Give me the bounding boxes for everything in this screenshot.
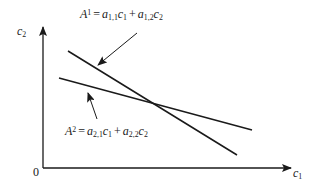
a2-t2-coef-sub: 2,2 (129, 130, 139, 139)
pointer-arrow-a1 (98, 33, 137, 65)
y-axis-label-sub: 2 (22, 30, 26, 39)
a2-equals: = (76, 124, 87, 138)
a1-plus: + (127, 7, 138, 21)
x-axis-label: c1 (293, 167, 302, 181)
y-axis-label: c2 (17, 25, 26, 39)
a2-t2-var-sub: 2 (144, 130, 148, 139)
diagram-svg (0, 0, 319, 189)
equation-a2-label: A2=a2,1c1+a2,2c2 (65, 125, 148, 139)
a2-t1-coef-sub: 2,1 (93, 130, 103, 139)
a1-equals: = (91, 7, 102, 21)
line-a2 (59, 78, 252, 130)
a2-plus: + (112, 124, 123, 138)
pointer-arrow-a2 (88, 93, 97, 119)
equation-a1-label: A1=a1,1c1+a1,2c2 (80, 8, 163, 22)
a1-t2-coef-sub: 1,2 (144, 13, 154, 22)
x-axis-label-sub: 1 (298, 172, 302, 181)
a1-t2-var-sub: 2 (159, 13, 163, 22)
diagram-canvas: c2 c1 0 A1=a1,1c1+a1,2c2 A2=a2,1c1+a2,2c… (0, 0, 319, 189)
a1-t1-coef-sub: 1,1 (108, 13, 118, 22)
origin-label: 0 (33, 166, 39, 178)
